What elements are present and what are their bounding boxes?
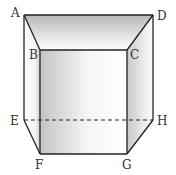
vertex-label-F: F bbox=[35, 158, 43, 172]
geometry-diagram: A B C D E F G H bbox=[0, 0, 176, 175]
vertex-label-H: H bbox=[157, 114, 167, 128]
vertex-label-D: D bbox=[157, 9, 167, 23]
vertex-label-G: G bbox=[122, 158, 132, 172]
vertex-label-A: A bbox=[10, 6, 20, 20]
vertex-label-C: C bbox=[130, 48, 139, 62]
face-front-BCGF bbox=[40, 50, 127, 154]
vertex-label-E: E bbox=[10, 114, 19, 128]
vertex-label-B: B bbox=[29, 48, 38, 62]
